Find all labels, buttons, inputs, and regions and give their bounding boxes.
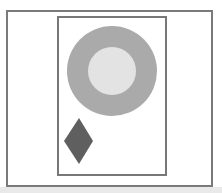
diamond-shape	[64, 118, 93, 164]
ring-inner-circle	[88, 47, 136, 95]
shapes-layer	[0, 0, 222, 193]
